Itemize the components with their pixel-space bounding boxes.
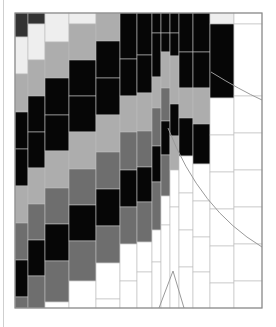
mosaic-cell — [161, 155, 170, 196]
mosaic-cell — [96, 299, 120, 308]
mosaic-cell — [96, 226, 120, 263]
mosaic-cell — [234, 96, 262, 133]
mosaic-cell — [69, 169, 96, 205]
mosaic-cell — [96, 13, 120, 41]
mosaic-cell — [28, 132, 45, 168]
mosaic-cell — [15, 149, 28, 186]
mosaic-cell — [69, 281, 96, 308]
mosaic-cell — [137, 242, 152, 272]
mosaic-cell — [28, 24, 45, 60]
mosaic-diagram — [0, 0, 276, 327]
mosaic-cell — [170, 56, 179, 104]
mosaic-cell — [234, 13, 262, 24]
mosaic-cell — [152, 13, 161, 33]
mosaic-cell — [137, 131, 152, 167]
mosaic-cell — [28, 60, 45, 96]
mosaic-cell — [161, 196, 170, 225]
mosaic-cell — [15, 112, 28, 149]
mosaic-cell — [69, 96, 96, 132]
mosaic-cell — [45, 261, 69, 302]
mosaic-cell — [137, 202, 152, 242]
mosaic-cell — [28, 96, 45, 132]
mosaic-cell — [137, 55, 152, 93]
mosaic-cell — [96, 152, 120, 189]
mosaic-cell — [28, 204, 45, 240]
mosaic-cell — [234, 244, 262, 281]
mosaic-cell — [69, 60, 96, 96]
mosaic-cell — [179, 267, 193, 308]
mosaic-cell — [28, 13, 45, 24]
mosaic-cells — [15, 13, 262, 308]
mosaic-cell — [152, 77, 161, 108]
mosaic-cell — [45, 115, 69, 151]
mosaic-cell — [234, 207, 262, 244]
mosaic-cell — [210, 135, 234, 172]
mosaic-cell — [69, 24, 96, 60]
mosaic-cell — [152, 108, 161, 146]
mosaic-cell — [120, 281, 137, 308]
mosaic-cell — [179, 88, 193, 118]
mosaic-cell — [45, 151, 69, 188]
mosaic-cell — [152, 182, 161, 230]
mosaic-cell — [170, 33, 179, 56]
mosaic-cell — [234, 24, 262, 96]
mosaic-cell — [193, 124, 210, 164]
mosaic-cell — [179, 52, 193, 88]
mosaic-cell — [161, 88, 170, 121]
mosaic-cell — [170, 170, 179, 207]
mosaic-cell — [15, 260, 28, 297]
mosaic-cell — [170, 13, 179, 33]
mosaic-cell — [210, 172, 234, 209]
mosaic-cell — [137, 13, 152, 55]
mosaic-cell — [69, 13, 96, 24]
mosaic-cell — [45, 302, 69, 308]
mosaic-cell — [234, 170, 262, 207]
mosaic-cell — [28, 240, 45, 276]
mosaic-cell — [45, 224, 69, 261]
mosaic-cell — [137, 167, 152, 202]
mosaic-cell — [15, 74, 28, 111]
mosaic-cell — [179, 230, 193, 267]
mosaic-cell — [15, 223, 28, 260]
mosaic-cell — [152, 33, 161, 77]
mosaic-cell — [45, 188, 69, 224]
mosaic-cell — [193, 237, 210, 272]
mosaic-cell — [161, 13, 170, 33]
mosaic-cell — [120, 244, 137, 281]
mosaic-cell — [15, 186, 28, 223]
mosaic-cell — [210, 24, 234, 98]
mosaic-cell — [161, 225, 170, 308]
mosaic-cell — [120, 96, 137, 132]
mosaic-cell — [15, 13, 28, 37]
mosaic-cell — [170, 207, 179, 308]
mosaic-cell — [45, 78, 69, 115]
mosaic-cell — [193, 272, 210, 308]
mosaic-cell — [234, 133, 262, 170]
mosaic-cell — [210, 246, 234, 283]
mosaic-cell — [120, 132, 137, 170]
mosaic-cell — [193, 88, 210, 124]
mosaic-cell — [137, 93, 152, 131]
mosaic-cell — [179, 193, 193, 230]
mosaic-cell — [234, 281, 262, 308]
mosaic-cell — [96, 41, 120, 78]
mosaic-cell — [179, 118, 193, 156]
mosaic-cell — [120, 170, 137, 207]
mosaic-cell — [120, 13, 137, 59]
mosaic-cell — [193, 52, 210, 88]
mosaic-cell — [69, 241, 96, 281]
mosaic-cell — [96, 263, 120, 299]
mosaic-cell — [96, 189, 120, 226]
mosaic-cell — [15, 297, 28, 308]
mosaic-cell — [96, 115, 120, 152]
mosaic-cell — [193, 201, 210, 237]
mosaic-cell — [210, 283, 234, 308]
mosaic-cell — [69, 132, 96, 169]
mosaic-cell — [161, 33, 170, 52]
mosaic-cell — [96, 78, 120, 115]
mosaic-cell — [161, 121, 170, 155]
mosaic-cell — [210, 209, 234, 246]
mosaic-cell — [28, 168, 45, 204]
mosaic-cell — [170, 136, 179, 170]
mosaic-cell — [152, 230, 161, 262]
